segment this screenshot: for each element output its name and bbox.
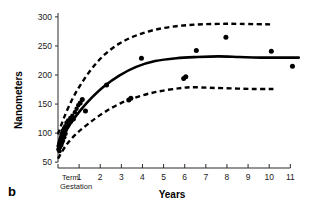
scatter-points: [56, 35, 295, 154]
y-tick-label: 300: [38, 12, 52, 22]
panel-label: b: [8, 184, 16, 199]
data-point: [269, 49, 274, 54]
data-point: [290, 64, 295, 69]
x-tick-label: 9: [246, 172, 251, 182]
x-tick-label: 6: [182, 172, 187, 182]
x-axis-group: 1234567891011: [58, 164, 295, 182]
x-tick-label: 11: [286, 172, 295, 182]
y-tick-label: 150: [38, 99, 52, 109]
data-point: [83, 109, 88, 114]
data-point: [128, 96, 133, 101]
figure-panel-b: 50100150200250300 1234567891011 Nanomete…: [0, 0, 310, 205]
data-point: [139, 56, 144, 61]
x-origin-label-line2: Gestation: [60, 182, 92, 191]
data-point: [183, 74, 188, 79]
x-tick-label: 3: [119, 172, 124, 182]
y-tick-label: 100: [38, 128, 52, 138]
data-point: [71, 117, 75, 121]
data-point: [57, 149, 61, 153]
x-tick-label: 8: [225, 172, 230, 182]
x-origin-label-line1: Term: [62, 173, 79, 182]
x-tick-labels: 1234567891011: [77, 172, 295, 182]
y-axis-group: 50100150200250300: [38, 12, 58, 167]
y-tick-labels: 50100150200250300: [38, 12, 52, 167]
x-tick-label: 10: [264, 172, 274, 182]
y-axis-title: Nanometers: [13, 71, 24, 129]
y-tick-label: 250: [38, 41, 52, 51]
x-axis-title: Years: [159, 189, 186, 200]
x-tick-marks: [58, 164, 290, 168]
chart-canvas: 50100150200250300 1234567891011 Nanomete…: [0, 0, 310, 205]
x-tick-label: 7: [203, 172, 208, 182]
mean-fit-curve: [58, 56, 299, 146]
data-point: [104, 82, 109, 87]
y-tick-label: 200: [38, 70, 52, 80]
x-tick-label: 4: [140, 172, 145, 182]
data-point: [194, 48, 199, 53]
data-point: [63, 132, 67, 136]
data-point: [80, 97, 85, 102]
x-tick-label: 2: [98, 172, 103, 182]
x-tick-label: 5: [161, 172, 166, 182]
data-point: [223, 35, 228, 40]
y-tick-label: 50: [43, 157, 53, 167]
upper-bound-curve: [58, 24, 273, 134]
plot-area: [56, 24, 299, 159]
